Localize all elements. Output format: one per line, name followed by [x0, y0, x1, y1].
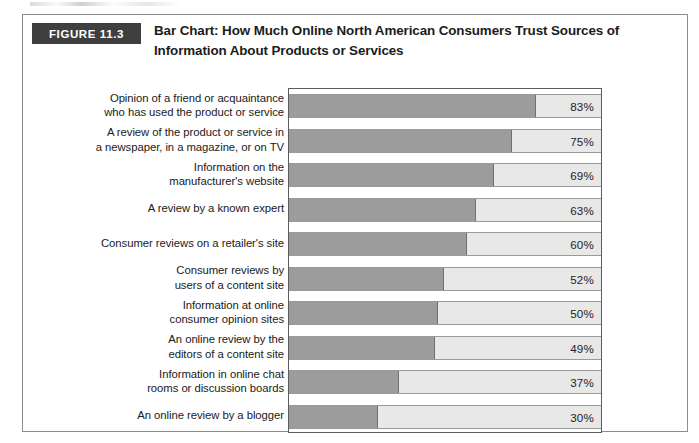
category-label-line: An online review by the — [53, 332, 284, 347]
category-label-line: Opinion of a friend or acquaintance — [53, 91, 284, 106]
figure-header: FIGURE 11.3 Bar Chart: How Much Online N… — [23, 15, 687, 73]
bar-value-label: 30% — [570, 410, 594, 423]
category-label-line: Information on the — [53, 160, 284, 175]
bar-fill — [289, 337, 435, 359]
category-label-line: Information in online chat — [53, 367, 284, 382]
category-label: Information on themanufacturer's website — [53, 160, 284, 189]
bar-row: 37% — [289, 370, 601, 394]
bar-fill — [289, 164, 494, 186]
category-label-line: editors of a content site — [53, 347, 284, 362]
category-label-line: consumer opinion sites — [53, 312, 284, 327]
category-label-line: A review by a known expert — [53, 201, 284, 216]
figure-title: Bar Chart: How Much Online North America… — [154, 21, 673, 62]
bar-value-label: 75% — [570, 134, 594, 147]
plot-inner: 83%75%69%63%60%52%50%49%37%30% — [289, 89, 601, 432]
bar-row: 50% — [289, 301, 601, 325]
bar-row: 63% — [289, 198, 601, 222]
bar-value-label: 52% — [570, 272, 594, 285]
category-label-line: manufacturer's website — [53, 174, 284, 189]
bar-row: 30% — [289, 405, 601, 429]
bar-fill — [289, 268, 444, 290]
bar-fill — [289, 130, 512, 152]
plot-area: 83%75%69%63%60%52%50%49%37%30% — [288, 88, 602, 433]
category-label-column: Opinion of a friend or acquaintancewho h… — [53, 73, 284, 431]
bar-fill — [289, 233, 467, 255]
category-label: An online review by a blogger — [53, 408, 284, 423]
category-label-line: Consumer reviews by — [53, 263, 284, 278]
bar-fill — [289, 302, 438, 324]
bar-value-label: 50% — [570, 307, 594, 320]
category-label-line: a newspaper, in a magazine, or on TV — [53, 140, 284, 155]
category-label-line: users of a content site — [53, 278, 284, 293]
category-label-line: who has used the product or service — [53, 105, 284, 120]
bar-value-label: 63% — [570, 203, 594, 216]
category-label: Information in online chatrooms or discu… — [53, 367, 284, 396]
bar-row: 69% — [289, 163, 601, 187]
bar-row: 75% — [289, 129, 601, 153]
bar-value-label: 83% — [570, 100, 594, 113]
category-label-line: Information at online — [53, 298, 284, 313]
bar-row: 60% — [289, 232, 601, 256]
bar-row: 83% — [289, 94, 601, 118]
category-label: Consumer reviews byusers of a content si… — [53, 263, 284, 292]
category-label: Opinion of a friend or acquaintancewho h… — [53, 91, 284, 120]
bar-fill — [289, 95, 536, 117]
category-label: Information at onlineconsumer opinion si… — [53, 298, 284, 327]
bar-fill — [289, 371, 399, 393]
category-label: A review by a known expert — [53, 201, 284, 216]
category-label-line: rooms or discussion boards — [53, 381, 284, 396]
figure-frame: FIGURE 11.3 Bar Chart: How Much Online N… — [22, 14, 688, 432]
bar-value-label: 69% — [570, 169, 594, 182]
bar-row: 52% — [289, 267, 601, 291]
category-label: Consumer reviews on a retailer's site — [53, 236, 284, 251]
bar-row: 49% — [289, 336, 601, 360]
category-label: An online review by theeditors of a cont… — [53, 332, 284, 361]
scan-artifact — [30, 2, 180, 6]
bar-fill — [289, 406, 378, 428]
bar-value-label: 60% — [570, 238, 594, 251]
figure-number-badge: FIGURE 11.3 — [32, 23, 141, 44]
category-label: A review of the product or service ina n… — [53, 125, 284, 154]
bar-value-label: 49% — [570, 341, 594, 354]
category-label-line: Consumer reviews on a retailer's site — [53, 236, 284, 251]
bar-value-label: 37% — [570, 376, 594, 389]
figure-title-line-1: Bar Chart: How Much Online North America… — [154, 23, 603, 38]
category-label-line: A review of the product or service in — [53, 125, 284, 140]
category-label-line: An online review by a blogger — [53, 408, 284, 423]
bar-fill — [289, 199, 476, 221]
bar-chart: Opinion of a friend or acquaintancewho h… — [23, 73, 687, 431]
